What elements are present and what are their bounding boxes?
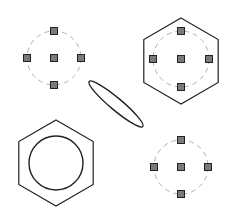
control-handle[interactable] xyxy=(178,84,185,91)
diagram-canvas xyxy=(0,0,230,223)
control-handle[interactable] xyxy=(178,191,185,198)
control-handle[interactable] xyxy=(51,28,58,35)
control-handle[interactable] xyxy=(151,164,158,171)
control-handle[interactable] xyxy=(24,55,31,62)
hexagon-outline xyxy=(19,120,93,206)
hexagon-bottom-left[interactable] xyxy=(19,120,93,206)
diagonal-ellipse[interactable] xyxy=(85,77,146,131)
control-handle[interactable] xyxy=(178,164,185,171)
selection-circle-top-left[interactable] xyxy=(24,28,85,89)
control-handle[interactable] xyxy=(150,56,157,63)
selection-circle-bottom-right[interactable] xyxy=(151,137,212,198)
inner-circle xyxy=(29,136,83,190)
control-handle[interactable] xyxy=(78,55,85,62)
hexagon-top-right[interactable] xyxy=(144,18,218,104)
control-handle[interactable] xyxy=(178,56,185,63)
control-handle[interactable] xyxy=(205,164,212,171)
control-handle[interactable] xyxy=(178,137,185,144)
control-handle[interactable] xyxy=(206,56,213,63)
control-handle[interactable] xyxy=(51,55,58,62)
control-handle[interactable] xyxy=(51,82,58,89)
control-handle[interactable] xyxy=(178,28,185,35)
ellipse-outline xyxy=(85,77,146,131)
